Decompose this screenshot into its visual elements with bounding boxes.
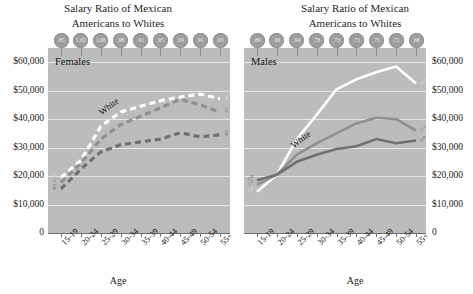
axis-title-age-males: Age (237, 275, 473, 286)
ratio-badge: .91 (193, 33, 208, 48)
ratio-badge-stem (61, 47, 62, 56)
female-symbol-marker: ♀ (50, 181, 59, 193)
axis-title-age-females: Age (0, 275, 236, 286)
series-lines (244, 48, 426, 233)
y-tick-label: $10,000 (432, 199, 463, 209)
female-symbol-marker: ♀ (222, 91, 230, 103)
y-tick-label: 0 (432, 227, 437, 237)
ratio-badge: .71 (389, 33, 404, 48)
y-axis-labels-females: 0$10,000$20,000$30,000$40,000$50,000$60,… (0, 0, 44, 294)
series-line-other (257, 139, 416, 180)
ratio-badge: .95 (153, 33, 168, 48)
plot-area-males: ♂♂♂♂♂♂ (244, 48, 426, 233)
plot-area-females: ♀♀♀♀♀♀ (48, 48, 230, 233)
ratio-badge: 1.06 (93, 33, 108, 48)
ratio-badge-stem (220, 47, 221, 56)
ratio-badge: .86 (250, 33, 265, 48)
chart-title-males-line2: Americans to Whites (309, 17, 402, 29)
ratio-badge-stem (297, 47, 298, 56)
panel-females: Salary Ratio of Mexican Americans to Whi… (0, 0, 236, 294)
ratio-badge: .94 (289, 33, 304, 48)
chart-title-females-line2: Americans to Whites (72, 17, 165, 29)
female-symbol-marker: ♀ (222, 104, 230, 116)
series-line-mexican-american (257, 118, 416, 185)
ratio-badge-stem (416, 47, 417, 56)
ratio-badge-stem (121, 47, 122, 56)
y-tick-label: $50,000 (432, 85, 463, 95)
y-tick-label: $20,000 (432, 170, 463, 180)
male-symbol-marker: ♂ (246, 172, 255, 184)
y-tick-label: 0 (39, 227, 44, 237)
ratio-badge: .98 (113, 33, 128, 48)
chart-title-females-line1: Salary Ratio of Mexican (64, 2, 172, 14)
y-tick-label: $30,000 (13, 142, 44, 152)
y-tick-label: $50,000 (13, 85, 44, 95)
panel-males: Salary Ratio of Mexican Americans to Whi… (237, 0, 473, 294)
y-tick-label: $60,000 (13, 56, 44, 66)
ratio-badge-stem (277, 47, 278, 56)
ratio-badge: .73 (329, 33, 344, 48)
ratio-badge-stem (81, 47, 82, 56)
ratio-badge-stem (376, 47, 377, 56)
ratio-badge: .91 (133, 33, 148, 48)
ratio-badge-stem (101, 47, 102, 56)
y-tick-label: $40,000 (432, 113, 463, 123)
panel-label-females: Females (55, 56, 90, 67)
y-tick-label: $30,000 (432, 142, 463, 152)
ratio-badge: .73 (349, 33, 364, 48)
series-lines (48, 48, 230, 233)
ratio-badge: .78 (309, 33, 324, 48)
male-symbol-marker: ♂ (418, 76, 426, 88)
ratio-badge-stem (160, 47, 161, 56)
ratio-badge: .75 (369, 33, 384, 48)
ratio-badge-stem (356, 47, 357, 56)
y-tick-label: $60,000 (432, 56, 463, 66)
ratio-badge-stem (257, 47, 258, 56)
ratio-badge: .93 (213, 33, 228, 48)
ratio-badge-stem (200, 47, 201, 56)
y-axis-labels-males: 0$10,000$20,000$30,000$40,000$50,000$60,… (429, 0, 473, 294)
female-symbol-marker: ♀ (222, 127, 230, 139)
ratio-badge-stem (141, 47, 142, 56)
ratio-badge: 1.02 (73, 33, 88, 48)
panel-label-males: Males (251, 56, 277, 67)
ratio-badge-stem (337, 47, 338, 56)
ratio-badge: .85 (54, 33, 69, 48)
y-tick-label: $20,000 (13, 170, 44, 180)
y-tick-label: $10,000 (13, 199, 44, 209)
ratio-badge: .68 (409, 33, 424, 48)
y-tick-label: $40,000 (13, 113, 44, 123)
ratio-badge-stem (317, 47, 318, 56)
ratio-badge-stem (180, 47, 181, 56)
male-symbol-marker: ♂ (418, 133, 426, 145)
ratio-badge: .99 (173, 33, 188, 48)
ratio-badge-stem (396, 47, 397, 56)
ratio-badge: .96 (269, 33, 284, 48)
chart-title-males-line1: Salary Ratio of Mexican (301, 2, 409, 14)
figure-salary-ratio: Salary Ratio of Mexican Americans to Whi… (0, 0, 473, 294)
